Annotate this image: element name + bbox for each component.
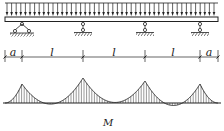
roller-support <box>191 22 209 36</box>
dim-label-a-left: a <box>10 47 17 58</box>
beam-diagram <box>0 0 224 131</box>
moment-label: M <box>103 118 113 128</box>
dim-label-a-right: a <box>206 47 213 58</box>
pin-support <box>10 22 34 36</box>
distributed-load <box>5 3 218 16</box>
dim-label-l-2: l <box>112 47 116 58</box>
roller-support <box>74 22 92 36</box>
moment-diagram <box>3 78 221 105</box>
roller-support <box>136 22 154 36</box>
dim-label-l-1: l <box>50 47 54 58</box>
dim-label-l-3: l <box>171 47 175 58</box>
beam <box>5 17 218 22</box>
